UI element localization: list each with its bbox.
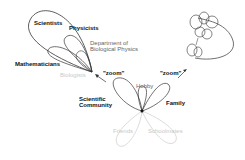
label-scientists: Scientists	[34, 20, 62, 26]
label-community: Community	[79, 102, 112, 108]
label-dept-2: Biological Physics	[90, 46, 138, 52]
zoom-arrow-left-head	[95, 74, 99, 78]
cell	[194, 47, 202, 57]
label-mathematicians: Mathematicians	[15, 61, 60, 67]
label-biologists: Biologists	[60, 72, 86, 78]
label-hobby: Hobby	[136, 83, 153, 89]
cell	[195, 27, 205, 37]
label-zoom-right: "zoom"	[160, 70, 181, 76]
label-friends: Friends	[113, 128, 133, 134]
cell	[187, 44, 197, 56]
hobby-loop	[138, 86, 146, 111]
label-zoom-left: "zoom"	[103, 70, 124, 76]
label-schoolmates: Schoolmates	[148, 128, 183, 134]
center-node	[141, 110, 144, 113]
cell	[202, 29, 212, 39]
label-family: Family	[166, 100, 185, 106]
zoom-arrow-right-head	[183, 69, 187, 72]
label-physicists: Physicists	[69, 25, 99, 31]
right-big-loop	[195, 18, 234, 59]
